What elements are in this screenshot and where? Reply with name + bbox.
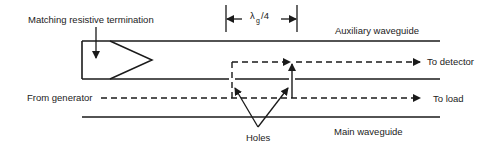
to-load-label: To load: [433, 93, 464, 104]
spacing-subscript: g: [256, 17, 260, 25]
termination-label: Matching resistive termination: [28, 14, 154, 25]
hole1-pointer-arrow: [235, 88, 258, 127]
hole2-pointer-arrow: [258, 88, 288, 127]
to-detector-label: To detector: [427, 56, 474, 67]
spacing-label: λ g /4: [250, 10, 269, 25]
spacing-suffix: /4: [261, 10, 269, 21]
coupler-diagram: Matching resistive termination Auxiliary…: [0, 0, 495, 150]
termination-wedge: [110, 41, 152, 79]
from-generator-label: From generator: [27, 92, 92, 103]
auxiliary-waveguide-label: Auxiliary waveguide: [335, 25, 419, 36]
main-waveguide-label: Main waveguide: [334, 126, 403, 137]
holes-label: Holes: [246, 132, 271, 143]
spacing-lambda: λ: [250, 10, 255, 21]
